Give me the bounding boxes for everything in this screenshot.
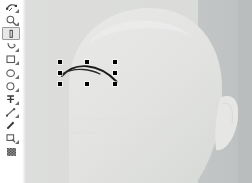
text-tool[interactable]	[2, 93, 20, 106]
toolbar-divider	[22, 0, 26, 183]
tool-menu-arrow[interactable]	[15, 22, 19, 26]
handle-n[interactable]	[85, 60, 89, 64]
pen-tool[interactable]	[2, 119, 20, 132]
handle-ne[interactable]	[113, 60, 117, 64]
line-tool[interactable]	[2, 106, 20, 119]
tool-palette[interactable]	[0, 0, 22, 183]
circle-tool[interactable]	[2, 80, 20, 93]
tool-menu-arrow[interactable]	[15, 75, 19, 79]
node-edit-tool[interactable]	[2, 1, 20, 14]
rectangle-tool[interactable]	[2, 53, 20, 66]
handle-nw[interactable]	[58, 60, 62, 64]
ellipse-tool[interactable]	[2, 66, 20, 79]
editor-window	[0, 0, 252, 183]
zoom-tool[interactable]	[2, 14, 20, 27]
selection-handles[interactable]	[26, 0, 252, 183]
drawing-canvas[interactable]	[26, 0, 252, 183]
handle-e[interactable]	[113, 71, 117, 75]
tool-menu-arrow[interactable]	[15, 48, 19, 52]
handle-sw[interactable]	[58, 82, 62, 86]
measure-tool[interactable]	[2, 27, 20, 40]
handle-se[interactable]	[113, 82, 117, 86]
freehand-tool[interactable]	[2, 40, 20, 53]
crop-tool[interactable]	[2, 132, 20, 145]
handle-s[interactable]	[85, 82, 89, 86]
tool-menu-arrow[interactable]	[15, 140, 19, 144]
tool-menu-arrow[interactable]	[15, 114, 19, 118]
tool-menu-arrow[interactable]	[15, 88, 19, 92]
checker-pattern-icon	[6, 147, 17, 157]
measure-ruler-icon	[7, 29, 16, 39]
tool-menu-arrow[interactable]	[15, 9, 19, 13]
tool-menu-arrow[interactable]	[15, 61, 19, 65]
pen-nib-icon	[5, 120, 18, 131]
handle-w[interactable]	[58, 71, 62, 75]
tool-menu-arrow[interactable]	[15, 101, 19, 105]
pattern-fill-tool[interactable]	[2, 145, 20, 158]
